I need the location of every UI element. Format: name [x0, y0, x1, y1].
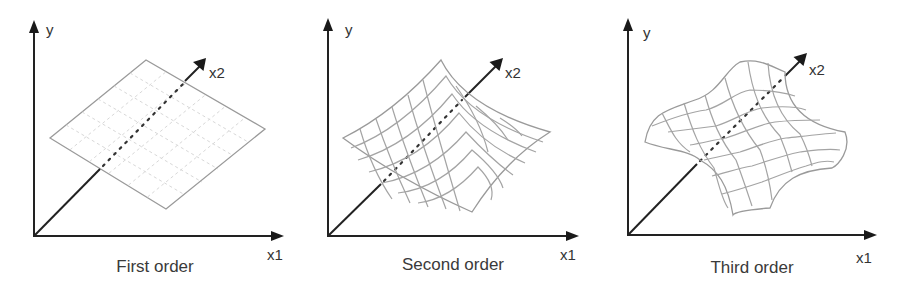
y-axis	[29, 20, 39, 237]
panel-caption: Third order	[710, 258, 793, 277]
x1-axis	[627, 230, 877, 240]
y-axis-label: y	[345, 21, 353, 38]
figure: y x2 x1 First order	[0, 0, 910, 298]
panel-caption: First order	[116, 257, 194, 276]
x1-axis-label: x1	[560, 246, 576, 263]
x1-axis	[33, 231, 284, 241]
y-arrowhead-icon	[623, 18, 633, 31]
x2-arrowhead-icon	[490, 58, 504, 71]
x1-axis	[327, 231, 579, 241]
y-axis-label: y	[643, 24, 651, 41]
panel-third-order: y x2 x1 Third order	[623, 18, 877, 277]
x1-arrowhead-icon	[566, 231, 579, 241]
quadratic-surface	[343, 60, 550, 212]
x2-axis-label: x2	[809, 61, 825, 78]
x1-axis-label: x1	[267, 246, 283, 263]
panel-first-order: y x2 x1 First order	[29, 20, 284, 276]
panel-second-order: y x2 x1 Second order	[323, 18, 579, 274]
x1-arrowhead-icon	[864, 230, 877, 240]
x2-arrowhead-icon	[794, 53, 808, 66]
x2-axis	[34, 58, 206, 236]
y-arrowhead-icon	[29, 20, 39, 33]
cubic-surface	[645, 61, 847, 215]
x2-axis	[628, 53, 807, 235]
panel-caption: Second order	[402, 255, 504, 274]
y-axis-label: y	[46, 21, 54, 38]
y-axis	[323, 18, 333, 237]
x2-axis-label: x2	[209, 64, 225, 81]
x1-arrowhead-icon	[271, 231, 284, 241]
x2-arrowhead-icon	[193, 58, 206, 71]
x1-axis-label: x1	[856, 249, 872, 266]
y-arrowhead-icon	[323, 18, 333, 31]
x2-axis-label: x2	[505, 64, 521, 81]
y-axis	[623, 18, 633, 236]
